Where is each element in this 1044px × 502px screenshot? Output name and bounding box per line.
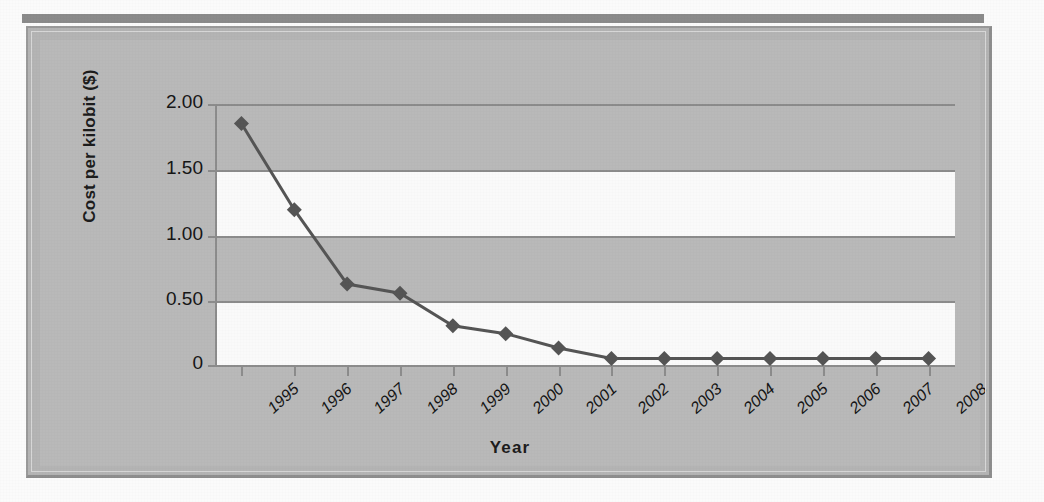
x-axis-label: 2002 xyxy=(635,380,673,417)
y-axis-label: 1.50 xyxy=(113,157,203,179)
y-axis-label: 0.50 xyxy=(113,288,203,310)
x-axis-label: 2006 xyxy=(846,380,884,417)
x-axis-tick xyxy=(611,367,613,376)
x-axis-tick xyxy=(717,367,719,376)
x-axis-title: Year xyxy=(40,438,980,458)
data-point-marker xyxy=(657,351,672,366)
chart-frame: Cost per kilobit ($) Year 2.00 1.50 1.00 xyxy=(26,26,992,478)
x-axis-label: 2003 xyxy=(687,380,725,417)
x-axis-tick xyxy=(929,367,931,376)
scanned-page: The printed World Wide Web for the snap … xyxy=(0,0,1044,502)
data-point-marker xyxy=(604,351,619,366)
x-axis-tick xyxy=(347,367,349,376)
data-point-marker xyxy=(498,326,513,341)
data-point-marker xyxy=(868,351,883,366)
x-axis-tick xyxy=(664,367,666,376)
data-point-marker xyxy=(815,351,830,366)
y-axis-label: 2.00 xyxy=(113,91,203,113)
series-line xyxy=(241,124,928,359)
x-axis-tick xyxy=(506,367,508,376)
data-point-marker xyxy=(551,341,566,356)
x-axis-tick xyxy=(559,367,561,376)
x-axis-tick xyxy=(770,367,772,376)
x-axis-label: 1997 xyxy=(370,380,408,417)
x-axis-tick xyxy=(241,367,243,376)
x-axis-label: 2005 xyxy=(793,380,831,417)
x-axis-tick xyxy=(400,367,402,376)
x-axis-tick xyxy=(453,367,455,376)
x-axis-label: 1998 xyxy=(423,380,461,417)
data-point-marker xyxy=(921,351,936,366)
plot-area: 2.00 1.50 1.00 0.50 0 199519961997199819… xyxy=(215,104,955,367)
x-axis-label: 2000 xyxy=(529,380,567,417)
y-axis-label: 1.00 xyxy=(113,223,203,245)
chart-panel: Cost per kilobit ($) Year 2.00 1.50 1.00 xyxy=(40,40,980,466)
x-axis-label: 2001 xyxy=(582,380,620,417)
y-axis-title: Cost per kilobit ($) xyxy=(80,16,100,276)
data-point-marker xyxy=(710,351,725,366)
x-axis-label: 2008 xyxy=(952,380,990,417)
y-axis-label: 0 xyxy=(113,352,203,374)
x-axis-label: 1999 xyxy=(476,380,514,417)
data-point-marker xyxy=(234,116,249,131)
x-axis-label: 2004 xyxy=(740,380,778,417)
x-axis-label: 2007 xyxy=(899,380,937,417)
x-axis-label: 1995 xyxy=(265,380,303,417)
x-axis-label: 1996 xyxy=(317,380,355,417)
x-axis-tick xyxy=(823,367,825,376)
data-point-marker xyxy=(445,318,460,333)
page-top-bar xyxy=(22,14,984,23)
x-axis-tick xyxy=(876,367,878,376)
data-point-marker xyxy=(763,351,778,366)
x-axis-tick xyxy=(294,367,296,376)
data-point-marker xyxy=(393,286,408,301)
data-series xyxy=(215,104,955,367)
